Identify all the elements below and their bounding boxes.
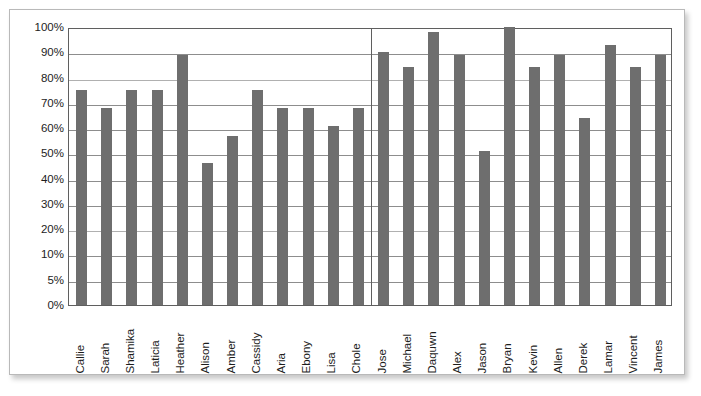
x-axis-tick-alison: Alison: [200, 342, 212, 373]
bar-james: [655, 55, 666, 305]
x-axis-tick-sarah: Sarah: [99, 342, 111, 373]
bar-michael: [403, 67, 414, 305]
x-axis-tick-amber: Amber: [225, 339, 237, 373]
bar-jason: [479, 151, 490, 305]
bar-callie: [76, 90, 87, 305]
y-axis-tick-60: 60%: [12, 123, 64, 135]
x-axis-tick-vincent: Vincent: [628, 335, 640, 373]
y-axis-tick-30: 30%: [12, 199, 64, 211]
plot-area: [68, 28, 672, 306]
y-axis-tick-10: 10%: [12, 250, 64, 262]
y-axis-tick-70: 70%: [12, 98, 64, 110]
bar-alison: [202, 163, 213, 305]
y-axis-tick-40: 40%: [12, 174, 64, 186]
y-axis-tick-90: 90%: [12, 48, 64, 60]
bar-laticia: [152, 90, 163, 305]
x-axis-tick-jose: Jose: [376, 349, 388, 373]
x-axis-tick-allen: Allen: [552, 347, 564, 373]
x-axis-tick-callie: Callie: [74, 344, 86, 373]
bar-vincent: [630, 67, 641, 305]
bar-lamar: [605, 45, 616, 305]
x-axis-tick-kevin: Kevin: [527, 344, 539, 373]
y-axis-tick-80: 80%: [12, 73, 64, 85]
x-axis-tick-jason: Jason: [477, 342, 489, 373]
x-axis-tick-lisa: Lisa: [326, 352, 338, 373]
x-axis-tick-lamar: Lamar: [603, 340, 615, 373]
y-axis-tick-labels: 100%90%80%70%60%50%40%30%20%10%5%0%: [10, 28, 64, 306]
bar-shamika: [126, 90, 137, 305]
bar-chole: [353, 108, 364, 305]
y-axis-tick-20: 20%: [12, 224, 64, 236]
bar-sarah: [101, 108, 112, 305]
bar-allen: [554, 55, 565, 305]
x-axis-tick-aria: Aria: [275, 353, 287, 373]
bar-amber: [227, 136, 238, 305]
x-axis-tick-ebony: Ebony: [301, 340, 313, 373]
group-divider: [371, 29, 372, 305]
bar-kevin: [529, 67, 540, 305]
gridline-90: [69, 54, 671, 55]
bar-chart: 100%90%80%70%60%50%40%30%20%10%5%0% Call…: [10, 10, 686, 376]
x-axis-tick-daquwn: Daquwn: [426, 331, 438, 373]
bar-lisa: [328, 126, 339, 305]
bar-daquwn: [428, 32, 439, 305]
bar-jose: [378, 52, 389, 305]
bar-bryan: [504, 27, 515, 305]
x-axis-tick-labels: CallieSarahShamikaLaticiaHeatherAlisonAm…: [68, 307, 672, 373]
y-axis-tick-50: 50%: [12, 149, 64, 161]
x-axis-tick-chole: Chole: [351, 343, 363, 373]
bar-derek: [579, 118, 590, 305]
x-axis-tick-james: James: [653, 339, 665, 373]
x-axis-tick-shamika: Shamika: [124, 328, 136, 373]
chart-card: 100%90%80%70%60%50%40%30%20%10%5%0% Call…: [9, 9, 685, 375]
x-axis-tick-laticia: Laticia: [150, 340, 162, 373]
bar-aria: [277, 108, 288, 305]
x-axis-tick-heather: Heather: [175, 332, 187, 373]
x-axis-tick-cassidy: Cassidy: [250, 332, 262, 373]
x-axis-tick-michael: Michael: [401, 333, 413, 373]
y-axis-tick-0: 0%: [12, 300, 64, 312]
bar-cassidy: [252, 90, 263, 305]
y-axis-tick-5: 5%: [12, 275, 64, 287]
x-axis-tick-bryan: Bryan: [502, 343, 514, 373]
x-axis-tick-derek: Derek: [577, 342, 589, 373]
gridline-80: [69, 80, 671, 81]
bar-heather: [177, 55, 188, 305]
bar-alex: [454, 55, 465, 305]
y-axis-tick-100: 100%: [12, 22, 64, 34]
x-axis-tick-alex: Alex: [452, 351, 464, 373]
bar-ebony: [303, 108, 314, 305]
